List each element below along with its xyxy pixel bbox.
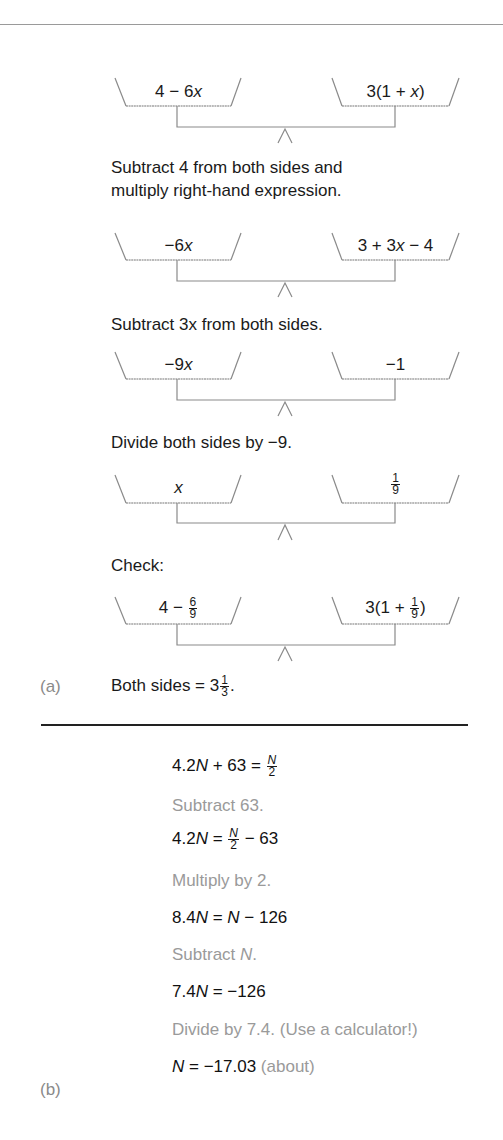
balance-4-right-pan: 19 xyxy=(342,473,449,496)
step-text: Subtract 4 from both sides and xyxy=(111,157,343,178)
section-divider xyxy=(41,724,468,726)
hint-line: Subtract N. xyxy=(172,944,257,966)
part-a-label: (a) xyxy=(40,677,61,697)
hint-line: Multiply by 2. xyxy=(172,870,271,892)
conclusion: Both sides = 313. xyxy=(111,675,235,698)
step-text: multiply right-hand expression. xyxy=(111,180,342,201)
hint-line: Subtract 63. xyxy=(172,795,264,817)
fraction: 19 xyxy=(391,473,400,496)
fraction: 13 xyxy=(220,675,229,698)
balance-1-left-pan: 4 − 6x xyxy=(126,82,231,102)
fraction: 19 xyxy=(410,597,419,620)
step-text: Check: xyxy=(111,555,164,576)
part-b-label: (b) xyxy=(40,1080,61,1100)
equation-line: 4.2N + 63 = N2 xyxy=(172,755,278,778)
balance-5-right-pan: 3(1 + 19) xyxy=(342,597,449,620)
balance-3-right-pan: −1 xyxy=(342,355,449,375)
fraction: N2 xyxy=(267,755,278,778)
balance-2-left-pan: −6x xyxy=(126,236,231,256)
balance-1-right-pan: 3(1 + x) xyxy=(342,82,449,102)
fraction: 69 xyxy=(189,597,198,620)
balance-4-left-pan: x xyxy=(126,478,231,498)
equation-line: N = −17.03 (about) xyxy=(172,1056,315,1078)
fraction: N2 xyxy=(228,828,239,851)
top-rule xyxy=(0,24,503,25)
hint-line: Divide by 7.4. (Use a calculator!) xyxy=(172,1019,418,1041)
equation-line: 4.2N = N2 − 63 xyxy=(172,828,278,851)
balance-5-left-pan: 4 − 69 xyxy=(126,597,231,620)
balance-2-right-pan: 3 + 3x − 4 xyxy=(342,236,449,256)
step-text: Divide both sides by −9. xyxy=(111,432,292,453)
equation-line: 7.4N = −126 xyxy=(172,981,266,1003)
balance-3-left-pan: −9x xyxy=(126,355,231,375)
equation-line: 8.4N = N − 126 xyxy=(172,907,287,929)
step-text: Subtract 3x from both sides. xyxy=(111,314,323,335)
